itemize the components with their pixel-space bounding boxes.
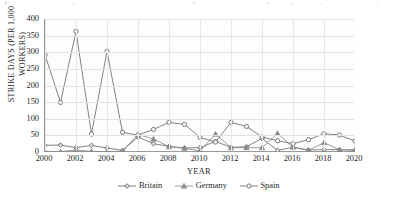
legend-item-spain[interactable]: Spain: [240, 181, 280, 191]
gridline-vertical: [324, 19, 325, 151]
y-axis-tick-label: 150: [13, 98, 39, 106]
gridline-vertical: [107, 19, 108, 151]
gridline-vertical: [45, 19, 46, 151]
legend-label: Spain: [260, 181, 279, 191]
x-axis-tick-label: 2002: [58, 154, 92, 163]
gridline-vertical: [138, 19, 139, 151]
plot-area: [44, 19, 354, 152]
gridline-vertical: [231, 19, 232, 151]
y-axis-tick-label: 250: [13, 65, 39, 73]
legend-marker-circle-icon: [240, 181, 258, 191]
gridline-vertical: [293, 19, 294, 151]
legend-marker-diamond-icon: [118, 181, 136, 191]
x-axis-tick-label: 2018: [306, 154, 340, 163]
y-axis-tick-label: 350: [13, 32, 39, 40]
x-axis-tick-label: 2020: [337, 154, 371, 163]
strike-days-line-chart: STRIKE DAYS (PER 1,000 WORKERS) 05010015…: [0, 0, 396, 200]
x-axis-tick-label: 2014: [244, 154, 278, 163]
y-axis-tick-label: 400: [13, 15, 39, 23]
legend-label: Britain: [139, 181, 162, 191]
chart-legend: BritainGermanySpain: [44, 181, 354, 191]
y-axis-tick-label: 300: [13, 48, 39, 56]
x-axis-tick-label: 2006: [120, 154, 154, 163]
x-axis-tick-label: 2004: [89, 154, 123, 163]
y-axis-tick-label: 100: [13, 115, 39, 123]
gridline-vertical: [200, 19, 201, 151]
x-axis-title: YEAR: [44, 167, 354, 176]
x-axis-tick-label: 2000: [27, 154, 61, 163]
legend-item-britain[interactable]: Britain: [118, 181, 162, 191]
legend-item-germany[interactable]: Germany: [175, 181, 227, 191]
x-axis-tick-label: 2016: [275, 154, 309, 163]
y-axis-tick-label: 200: [13, 82, 39, 90]
x-axis-tick-label: 2010: [182, 154, 216, 163]
x-axis-tick-label: 2008: [151, 154, 185, 163]
plot-gridlines: [45, 19, 354, 151]
legend-label: Germany: [196, 181, 227, 191]
y-axis-tick-label: 50: [13, 131, 39, 139]
legend-marker-triangle-icon: [175, 181, 193, 191]
gridline-vertical: [76, 19, 77, 151]
gridline-vertical: [262, 19, 263, 151]
gridline-vertical: [169, 19, 170, 151]
x-axis-tick-label: 2012: [213, 154, 247, 163]
